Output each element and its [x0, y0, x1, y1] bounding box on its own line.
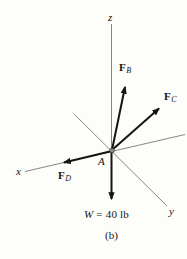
weight-label: W = 40 lb: [84, 209, 129, 220]
force-diagram-svg: [0, 0, 187, 259]
force-label-FB: FB: [119, 62, 131, 73]
origin-label: A: [98, 156, 105, 167]
figure-caption: (b): [105, 230, 118, 241]
force-FC-symbol: F: [164, 90, 171, 102]
force-label-FC: FC: [164, 91, 176, 102]
force-FD-subscript: D: [65, 174, 71, 183]
y-axis-line: [74, 114, 167, 206]
force-FC-subscript: C: [171, 95, 176, 104]
force-FD-symbol: F: [58, 169, 65, 181]
force-FB-subscript: B: [126, 66, 131, 75]
origin-particle-dot: [110, 148, 115, 153]
force-label-FD: FD: [58, 170, 71, 181]
weight-symbol: W: [84, 208, 93, 220]
weight-value: = 40 lb: [96, 208, 129, 220]
force-diagram-figure: z x y A FB FC FD W = 40 lb (b): [0, 0, 187, 259]
x-axis-label: x: [16, 166, 21, 177]
y-axis-label: y: [169, 206, 174, 217]
z-axis-label: z: [108, 12, 112, 23]
force-FB-symbol: F: [119, 61, 126, 73]
